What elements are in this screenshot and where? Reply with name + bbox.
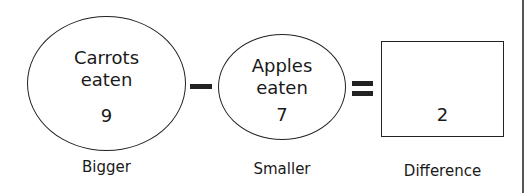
bigger-label-line1: Carrots xyxy=(28,47,185,69)
bigger-ellipse: Carrots eaten 9 xyxy=(27,16,186,151)
edge-divider xyxy=(522,0,524,193)
difference-value: 2 xyxy=(382,104,503,125)
smaller-label: Apples eaten xyxy=(219,55,345,99)
bigger-label-line2: eaten xyxy=(28,69,185,91)
equals-sign-bottom xyxy=(352,91,373,96)
bigger-label: Carrots eaten xyxy=(28,47,185,91)
smaller-ellipse: Apples eaten 7 xyxy=(218,34,346,140)
smaller-label-line2: eaten xyxy=(219,77,345,99)
bigger-caption: Bigger xyxy=(27,158,186,176)
difference-box: 2 xyxy=(381,41,504,137)
difference-caption: Difference xyxy=(381,162,504,180)
smaller-label-line1: Apples xyxy=(219,55,345,77)
equals-sign-top xyxy=(352,81,373,86)
smaller-caption: Smaller xyxy=(218,160,346,178)
smaller-value: 7 xyxy=(219,104,345,125)
bigger-value: 9 xyxy=(28,105,185,126)
minus-sign xyxy=(190,84,212,89)
